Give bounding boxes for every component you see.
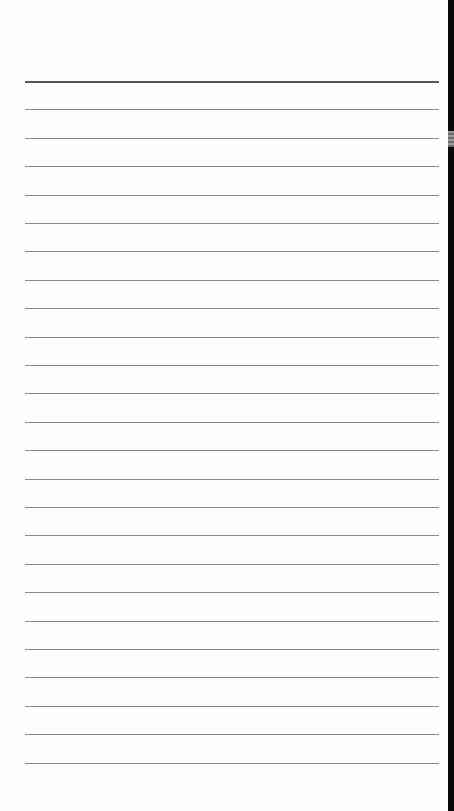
top-rule-line [25,81,439,83]
right-edge-strip [448,0,454,811]
rule-line [25,677,439,678]
notepad-page [0,0,448,811]
rule-line [25,365,439,366]
rule-line [25,479,439,480]
rule-line [25,564,439,565]
rule-line [25,308,439,309]
rule-line [25,251,439,252]
scroll-grip-handle[interactable] [448,131,454,147]
rule-line [25,649,439,650]
rule-line [25,450,439,451]
rule-line [25,763,439,764]
rule-line [25,280,439,281]
rule-line [25,535,439,536]
rule-line [25,138,439,139]
rule-line [25,507,439,508]
rule-line [25,734,439,735]
rule-line [25,195,439,196]
rule-line [25,223,439,224]
rule-line [25,393,439,394]
rule-line [25,706,439,707]
rule-line [25,621,439,622]
rule-line [25,422,439,423]
rule-line [25,592,439,593]
rule-line [25,337,439,338]
rule-line [25,109,439,110]
rule-line [25,166,439,167]
faint-header-text [8,0,428,6]
